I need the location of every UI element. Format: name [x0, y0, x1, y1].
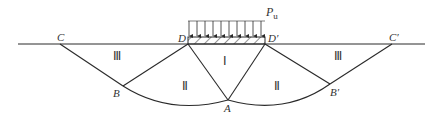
zone-label-II-left: Ⅱ — [182, 80, 188, 92]
point-label-D-prime: D′ — [268, 33, 278, 44]
zone-label-III-left: Ⅲ — [113, 50, 121, 62]
line-Dprime-Bprime — [265, 44, 330, 84]
point-label-B: B — [113, 88, 120, 99]
line-D-B — [123, 44, 188, 86]
load-subscript: u — [273, 11, 278, 21]
distributed-load-arrows — [188, 21, 265, 36]
line-Dprime-A — [228, 44, 265, 100]
footing — [188, 37, 265, 44]
point-label-D: D — [178, 33, 186, 44]
failure-mechanism-diagram — [0, 0, 440, 123]
log-spiral-B-A — [123, 86, 228, 106]
zone-label-II-right: Ⅱ — [274, 80, 280, 92]
load-label: Pu — [266, 6, 278, 18]
point-label-C: C — [57, 32, 64, 43]
line-D-A — [188, 44, 228, 100]
point-label-B-prime: B′ — [330, 87, 339, 98]
point-label-C-prime: C′ — [389, 32, 399, 43]
point-label-A: A — [224, 103, 231, 114]
zone-label-III-right: Ⅲ — [334, 50, 342, 62]
zone-label-I: Ⅰ — [223, 55, 227, 67]
